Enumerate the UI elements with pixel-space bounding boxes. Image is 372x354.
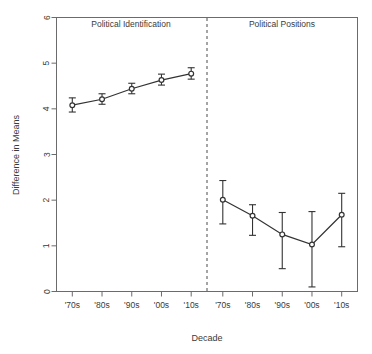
x-tick-label: '90s [124, 300, 139, 310]
data-point-marker [310, 242, 315, 247]
data-point-marker [100, 97, 105, 102]
y-tick-label: 2 [42, 198, 52, 203]
x-tick-label: '10s [184, 300, 199, 310]
y-tick-label: 3 [42, 152, 52, 157]
y-tick-label: 0 [42, 289, 52, 294]
x-tick-label: '70s [65, 300, 80, 310]
x-tick-label: '80s [245, 300, 260, 310]
data-point-marker [220, 197, 225, 202]
panel-title-right: Political Positions [249, 19, 315, 29]
x-tick-label: '00s [304, 300, 319, 310]
data-point-marker [159, 78, 164, 83]
y-tick-label: 1 [42, 243, 52, 248]
x-tick-label: '80s [94, 300, 109, 310]
data-point-marker [339, 212, 344, 217]
data-point-marker [70, 103, 75, 108]
panel-title-left: Political Identification [91, 19, 171, 29]
data-point-marker [250, 213, 255, 218]
data-point-marker [280, 232, 285, 237]
x-tick-label: '10s [334, 300, 349, 310]
chart-figure: 0123456 '70s'80s'90s'00s'10s'70s'80s'90s… [0, 0, 372, 354]
x-tick-label: '90s [275, 300, 290, 310]
x-axis-title: Decade [191, 333, 222, 343]
difference-in-means-chart: 0123456 '70s'80s'90s'00s'10s'70s'80s'90s… [0, 0, 372, 354]
y-tick-label: 6 [42, 15, 52, 20]
y-tick-label: 4 [42, 106, 52, 111]
y-axis-title: Difference in Means [11, 115, 21, 195]
x-tick-label: '00s [154, 300, 169, 310]
y-tick-label: 5 [42, 61, 52, 66]
data-point-marker [189, 71, 194, 76]
data-point-marker [129, 86, 134, 91]
x-tick-label: '70s [215, 300, 230, 310]
